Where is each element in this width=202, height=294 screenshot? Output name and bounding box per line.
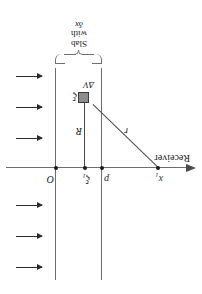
x-axis-arrowhead: [186, 164, 196, 172]
incident-arrow: [16, 138, 42, 139]
point-xi1-dot: [83, 166, 87, 170]
label-origin: O: [47, 174, 54, 184]
label-receiver-point: x1: [155, 172, 163, 184]
slab-caption: Slab with δx: [49, 19, 109, 48]
brace-bar-right: [64, 54, 76, 55]
incident-arrow: [16, 76, 42, 77]
slab-left-boundary-line: [101, 68, 102, 280]
label-distance-r: r: [124, 126, 128, 136]
figure-canvas: x1 Receiver p ξ1 O R r ξ ΔV Slab with δx: [0, 0, 202, 294]
brace-left-hook: [92, 54, 102, 64]
label-cell-volume: ΔV: [83, 80, 94, 89]
slab-caption-line2: with: [49, 29, 109, 39]
brace-right-hook: [55, 54, 65, 64]
label-distance-R: R: [76, 126, 82, 136]
label-cell-point-xi: ξ: [73, 92, 77, 102]
label-boundary-p: p: [104, 174, 109, 184]
point-receiver-dot: [156, 166, 160, 170]
slab-caption-line3: δx: [49, 19, 109, 29]
slab-caption-line1: Slab: [49, 38, 109, 48]
point-p-dot: [100, 166, 104, 170]
point-origin-dot: [54, 166, 58, 170]
incident-arrow: [16, 205, 42, 206]
slab-right-boundary-line: [55, 68, 56, 280]
incident-arrow: [16, 107, 42, 108]
incident-arrow: [16, 236, 42, 237]
incident-arrow: [16, 267, 42, 268]
volume-element-square: [78, 92, 89, 103]
brace-bar-left: [82, 54, 94, 55]
label-scatter-point-xi1: ξ1: [83, 173, 90, 185]
label-receiver: Receiver: [154, 153, 190, 163]
distance-R-line: [84, 102, 85, 168]
slab-thickness-brace: [56, 52, 102, 64]
